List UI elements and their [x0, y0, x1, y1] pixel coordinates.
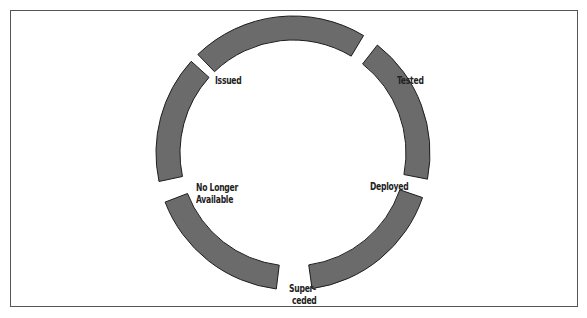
- ring-segment-tested-to-deployed: [363, 45, 430, 179]
- ring-segment-top: [198, 16, 364, 72]
- label-deployed: Deployed: [370, 181, 409, 193]
- ring-segment-no-longer-to-issued: [156, 61, 209, 181]
- label-no-longer-1: No Longer: [196, 182, 238, 194]
- lifecycle-ring: [0, 0, 587, 318]
- label-no-longer-2: Available: [196, 194, 233, 206]
- label-superceded-1: Super-: [289, 283, 316, 295]
- label-tested: Tested: [397, 75, 424, 87]
- label-issued: Issued: [215, 75, 242, 87]
- label-superceded-2: ceded: [292, 295, 317, 307]
- ring-segment-superceded-to-no-longer: [165, 193, 279, 288]
- ring-segment-deployed-to-superceded: [309, 190, 423, 289]
